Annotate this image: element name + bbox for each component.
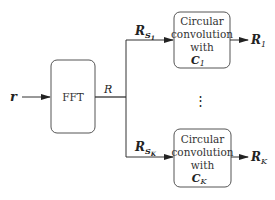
branch-1-output-label: R1 [250, 33, 266, 49]
block-diagram: r FFT R RS1 Circular convolution with C1… [0, 0, 275, 200]
input-label: r [10, 89, 18, 104]
block-1-line-2: convolution [171, 28, 233, 40]
block-k-line-1: Circular [181, 133, 226, 145]
branch-1: RS1 Circular convolution with C1 R1 [126, 12, 266, 68]
block-k-line-3: with [191, 159, 215, 171]
branch-1-input-label: RS1 [134, 24, 155, 41]
block-k-line-2: convolution [171, 146, 233, 158]
block-1-line-1: Circular [180, 15, 225, 27]
fft-output: R [95, 83, 126, 97]
fft-block: FFT [51, 60, 95, 133]
branch-k-output-label: RK [250, 150, 268, 166]
ellipsis: ⋮ [194, 93, 207, 108]
branch-k: RSK Circular convolution with CK RK [126, 129, 268, 187]
block-1-line-3: with [190, 41, 214, 53]
fft-output-label: R [103, 83, 112, 96]
input-signal: r [10, 89, 50, 104]
fft-label: FFT [62, 91, 84, 103]
branch-k-input-label: RSK [134, 140, 157, 157]
